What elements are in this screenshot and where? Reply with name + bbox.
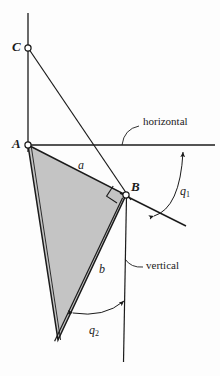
annotation-label-horizontal: horizontal: [143, 116, 188, 127]
angle-label-theta2: q2: [89, 324, 99, 336]
vertical-leader-line: [125, 259, 143, 267]
angle-theta1-arc: [154, 152, 183, 216]
figure-canvas: C A B a b q1 q2 horizontal vertical: [0, 0, 220, 376]
angle-label-theta1: q1: [180, 185, 190, 197]
point-label-B: B: [131, 180, 140, 193]
angle-theta2-arc: [73, 301, 124, 314]
annotation-label-vertical: vertical: [146, 260, 179, 271]
vertex-marker-A: [25, 142, 31, 148]
horizontal-leader-line: [122, 126, 139, 145]
side-label-b: b: [99, 263, 105, 275]
vertical-reference-line: [124, 196, 127, 362]
shaded-triangle: [28, 145, 126, 340]
angle-label-theta1-sub: 1: [186, 190, 190, 199]
point-label-C: C: [12, 40, 21, 53]
inclined-line-through-B: [120, 193, 186, 226]
point-label-A: A: [12, 137, 21, 150]
vertex-marker-B: [123, 192, 129, 198]
vertex-marker-C: [25, 45, 31, 51]
angle-label-theta2-sub: 2: [95, 329, 99, 338]
side-label-a: a: [78, 159, 84, 171]
